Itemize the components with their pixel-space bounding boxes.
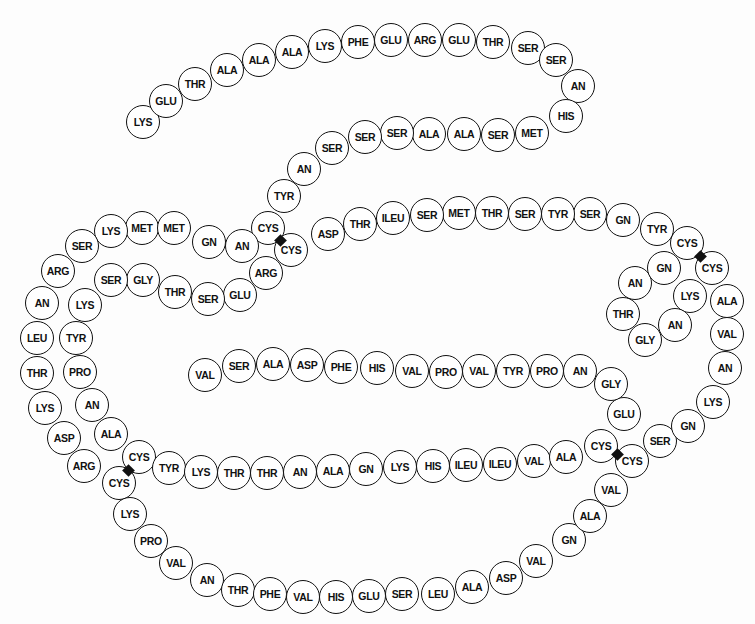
residue-lys: LYS <box>184 455 218 489</box>
residue-ser: SER <box>573 197 607 231</box>
residue-val: VAL <box>286 580 320 614</box>
residue-an: AN <box>708 351 742 385</box>
residue-cys: CYS <box>615 444 649 478</box>
residue-gly: GLY <box>594 367 628 401</box>
residue-leu: LEU <box>421 577 455 611</box>
residue-an: AN <box>563 354 597 388</box>
residue-lys: LYS <box>308 29 342 63</box>
residue-gn: GN <box>606 203 640 237</box>
residue-tyr: TYR <box>152 451 186 485</box>
residue-ileu: ILEU <box>449 448 483 482</box>
residue-glu: GLU <box>442 23 476 57</box>
residue-ala: ALA <box>94 417 128 451</box>
residue-ala: ALA <box>210 53 244 87</box>
residue-thr: THR <box>606 297 640 331</box>
residue-cys: CYS <box>584 429 618 463</box>
residue-an: AN <box>190 563 224 597</box>
residue-arg: ARG <box>41 254 75 288</box>
residue-thr: THR <box>217 456 251 490</box>
residue-gn: GN <box>192 225 226 259</box>
residue-his: HIS <box>360 351 394 385</box>
residue-tyr: TYR <box>267 179 301 213</box>
residue-ser: SER <box>191 282 225 316</box>
residue-lys: LYS <box>696 385 730 419</box>
residue-arg: ARG <box>408 23 442 57</box>
residue-val: VAL <box>594 473 628 507</box>
residue-thr: THR <box>20 356 54 390</box>
residue-ala: ALA <box>412 117 446 151</box>
residue-tyr: TYR <box>541 197 575 231</box>
residue-thr: THR <box>475 196 509 230</box>
residue-ileu: ILEU <box>376 201 410 235</box>
residue-ser: SER <box>222 349 256 383</box>
residue-thr: THR <box>476 25 510 59</box>
residue-ala: ALA <box>710 284 744 318</box>
residue-glu: GLU <box>607 397 641 431</box>
chain-backbone <box>0 0 755 624</box>
residue-ala: ALA <box>242 43 276 77</box>
residue-met: MET <box>157 211 191 245</box>
residue-an: AN <box>75 388 109 422</box>
residue-ser: SER <box>94 263 128 297</box>
residue-ala: ALA <box>549 440 583 474</box>
residue-ileu: ILEU <box>483 447 517 481</box>
residue-ser: SER <box>380 116 414 150</box>
residue-gn: GN <box>671 409 705 443</box>
residue-lys: LYS <box>28 391 62 425</box>
residue-pro: PRO <box>530 354 564 388</box>
residue-leu: LEU <box>20 321 54 355</box>
residue-lys: LYS <box>383 450 417 484</box>
protein-chain-diagram: LYSGLUTHRALAALAALALYSPHEGLUARGGLUTHRSERS… <box>0 0 755 624</box>
residue-asp: ASP <box>290 348 324 382</box>
residue-phe: PHE <box>324 350 358 384</box>
residue-val: VAL <box>462 354 496 388</box>
residue-his: HIS <box>416 449 450 483</box>
residue-thr: THR <box>178 67 212 101</box>
residue-met: MET <box>125 211 159 245</box>
residue-ser: SER <box>315 131 349 165</box>
residue-ala: ALA <box>455 570 489 604</box>
residue-ser: SER <box>508 197 542 231</box>
residue-lys: LYS <box>94 214 128 248</box>
residue-arg: ARG <box>67 449 101 483</box>
residue-val: VAL <box>188 358 222 392</box>
residue-asp: ASP <box>311 217 345 251</box>
residue-phe: PHE <box>341 25 375 59</box>
residue-his: HIS <box>549 99 583 133</box>
residue-val: VAL <box>159 546 193 580</box>
residue-thr: THR <box>221 573 255 607</box>
residue-lys: LYS <box>68 288 102 322</box>
residue-val: VAL <box>517 444 551 478</box>
residue-tyr: TYR <box>640 212 674 246</box>
residue-met: MET <box>515 116 549 150</box>
residue-ala: ALA <box>275 35 309 69</box>
residue-pro: PRO <box>429 355 463 389</box>
residue-glu: GLU <box>223 278 257 312</box>
residue-ala: ALA <box>316 454 350 488</box>
residue-an: AN <box>283 455 317 489</box>
residue-an: AN <box>25 286 59 320</box>
residue-an: AN <box>225 229 259 263</box>
residue-tyr: TYR <box>496 354 530 388</box>
residue-gly: GLY <box>126 263 160 297</box>
residue-an: AN <box>561 69 595 103</box>
residue-ser: SER <box>65 229 99 263</box>
residue-val: VAL <box>710 317 744 351</box>
residue-ser: SER <box>410 198 444 232</box>
residue-an: AN <box>658 308 692 342</box>
residue-ala: ALA <box>256 347 290 381</box>
residue-val: VAL <box>519 544 553 578</box>
residue-glu: GLU <box>352 579 386 613</box>
residue-pro: PRO <box>63 355 97 389</box>
residue-thr: THR <box>343 207 377 241</box>
residue-met: MET <box>442 196 476 230</box>
residue-glu: GLU <box>374 23 408 57</box>
residue-asp: ASP <box>489 561 523 595</box>
residue-gly: GLY <box>628 323 662 357</box>
residue-thr: THR <box>158 275 192 309</box>
residue-ser: SER <box>481 118 515 152</box>
residue-tyr: TYR <box>59 321 93 355</box>
residue-his: HIS <box>319 580 353 614</box>
residue-ser: SER <box>385 577 419 611</box>
residue-phe: PHE <box>253 577 287 611</box>
